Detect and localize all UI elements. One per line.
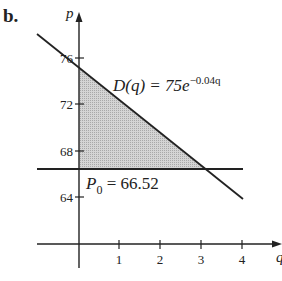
x-tick-label-4: 4 [239, 252, 246, 267]
p0-label: P0 = 66.52 [85, 174, 159, 197]
x-axis-label: q [276, 249, 282, 265]
x-axis-arrow-icon [272, 241, 282, 248]
y-tick-label-76: 76 [60, 51, 74, 66]
demand-equation: D(q) = 75e−0.04q [112, 74, 221, 95]
x-tick-label-3: 3 [198, 252, 205, 267]
y-axis-label: p [65, 5, 74, 21]
y-tick-label-64: 64 [60, 190, 74, 205]
demand-equation-main: D(q) = 75e [112, 76, 190, 95]
x-tick-label-2: 2 [157, 252, 164, 267]
p0-label-value: = 66.52 [102, 174, 158, 193]
x-tick-label-1: 1 [116, 252, 123, 267]
y-tick-label-68: 68 [60, 144, 73, 159]
chart-canvas: b. p q 76 72 68 64 1 2 3 4 D(q) = 75e−0.… [0, 0, 282, 281]
y-tick-label-72: 72 [60, 97, 73, 112]
y-axis-arrow-icon [76, 12, 83, 22]
demand-equation-exponent: −0.04q [190, 74, 221, 86]
panel-label: b. [3, 5, 18, 26]
p0-label-main: P [85, 174, 96, 193]
